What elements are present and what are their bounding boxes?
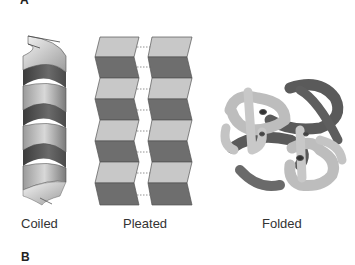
caption-pleated: Pleated (123, 216, 167, 231)
alpha-helix-icon (23, 36, 66, 205)
caption-coiled: Coiled (21, 216, 58, 231)
beta-sheet-icon (95, 37, 192, 205)
panel-b-label: B (21, 250, 30, 264)
folded-protein-icon (225, 85, 342, 186)
caption-folded: Folded (262, 216, 302, 231)
